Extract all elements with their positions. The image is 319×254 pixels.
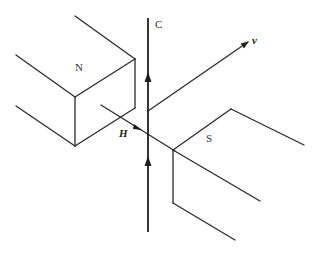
velocity-arrow <box>148 42 248 111</box>
north-pole-label: N <box>75 61 83 73</box>
south-pole-label: S <box>206 132 212 144</box>
current-arrow-lower-icon <box>145 156 152 166</box>
field-direction-arrow-icon <box>133 124 142 130</box>
north-magnet <box>16 16 135 146</box>
conductor-label: C <box>155 18 162 30</box>
field-label: H <box>118 127 128 139</box>
magnet-conductor-diagram: N v H S C <box>0 0 319 254</box>
current-arrow-upper-icon <box>145 72 152 82</box>
velocity-label: v <box>252 34 257 46</box>
south-magnet <box>173 109 304 240</box>
